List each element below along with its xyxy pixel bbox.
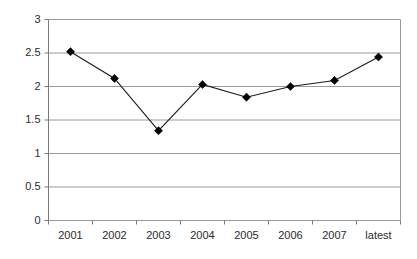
- x-tick-label: latest: [357, 230, 401, 241]
- y-tick-label: 3: [34, 14, 40, 25]
- series-polyline: [71, 52, 379, 131]
- x-tick-label: 2007: [313, 230, 357, 241]
- data-point-marker: [330, 76, 338, 84]
- y-tick-label: 1: [34, 148, 40, 159]
- y-axis-ticks: [45, 20, 49, 221]
- x-tick-label: 2003: [137, 230, 181, 241]
- line-chart: 00.511.522.53 20012002200320042005200620…: [0, 0, 417, 259]
- data-point-marker: [286, 82, 294, 90]
- x-tick-label: 2004: [181, 230, 225, 241]
- chart-plot-area: [0, 0, 417, 259]
- x-tick-label: 2001: [49, 230, 93, 241]
- data-series-line: [71, 52, 379, 131]
- x-tick-label: 2006: [269, 230, 313, 241]
- data-point-marker: [66, 48, 74, 56]
- y-tick-label: 2.5: [25, 47, 40, 58]
- data-point-marker: [242, 93, 250, 101]
- x-tick-label: 2005: [225, 230, 269, 241]
- gridlines: [49, 20, 401, 221]
- y-tick-label: 0: [34, 215, 40, 226]
- x-tick-label: 2002: [93, 230, 137, 241]
- y-tick-label: 2: [34, 81, 40, 92]
- x-axis-ticks: [49, 221, 401, 225]
- data-point-marker: [374, 53, 382, 61]
- y-tick-label: 1.5: [25, 114, 40, 125]
- y-tick-label: 0.5: [25, 181, 40, 192]
